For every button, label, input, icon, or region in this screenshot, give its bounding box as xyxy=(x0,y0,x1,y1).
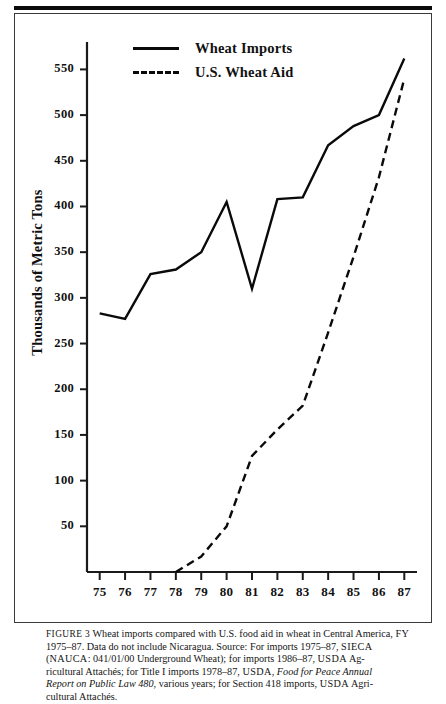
caption-text-4a: ricultural Attachés; for Title I imports… xyxy=(46,666,242,677)
y-tick-label: 300 xyxy=(15,290,74,305)
caption-sc-usda-1: USDA xyxy=(318,653,347,664)
legend-dashed-line-icon xyxy=(133,65,179,79)
plot-frame: Thousands of Metric Tons 501001502002503… xyxy=(14,13,432,623)
y-tick-label: 450 xyxy=(15,153,74,168)
caption-text-2a: 1975–87. Data do not include Nicaragua. … xyxy=(46,641,341,652)
y-tick-label: 550 xyxy=(15,61,74,76)
series-line-us-wheat-aid xyxy=(176,79,404,572)
caption-sc-usda-3: USDA xyxy=(320,678,349,689)
caption-sc-nauca: NAUCA xyxy=(49,653,87,664)
y-tick-label: 400 xyxy=(15,198,74,213)
chart-legend: Wheat Imports U.S. Wheat Aid xyxy=(133,36,293,84)
caption-line-5: Report on Public Law 480, various years;… xyxy=(46,678,432,691)
top-rule xyxy=(14,6,432,10)
y-tick-label: 500 xyxy=(15,107,74,122)
y-tick-label: 200 xyxy=(15,381,74,396)
series-line-wheat-imports xyxy=(100,58,405,318)
legend-solid-line-icon xyxy=(133,41,179,55)
x-axis-ticks xyxy=(100,572,405,580)
caption-text-6a: cultural Attachés. xyxy=(46,691,117,702)
figure-number: FIGURE 3 xyxy=(46,629,90,639)
caption-sc-sieca: SIECA xyxy=(341,641,372,652)
legend-label-wheat-imports: Wheat Imports xyxy=(195,40,292,57)
caption-italic-2: Report on Public Law 480 xyxy=(46,678,154,689)
caption-italic-1: Food for Peace Annual xyxy=(277,666,372,677)
caption-text-3b: Ag- xyxy=(347,653,365,664)
legend-label-us-wheat-aid: U.S. Wheat Aid xyxy=(195,64,293,81)
caption-sc-fy: FY xyxy=(395,628,409,639)
caption-line-4: ricultural Attachés; for Title I imports… xyxy=(46,666,432,679)
caption-text-3a: : 041/01/00 Underground Wheat); for impo… xyxy=(88,653,318,664)
x-tick-label: 87 xyxy=(388,584,420,600)
caption-sc-usda-2: USDA xyxy=(242,666,271,677)
y-axis-title: Thousands of Metric Tons xyxy=(29,83,46,463)
caption-text-5a: , various years; for Section 418 imports… xyxy=(154,678,320,689)
caption-line-2: 1975–87. Data do not include Nicaragua. … xyxy=(46,641,432,654)
chart-plot-area xyxy=(15,14,431,622)
y-tick-label: 350 xyxy=(15,244,74,259)
y-tick-label: 250 xyxy=(15,336,74,351)
caption-text-1a: Wheat imports compared with U.S. food ai… xyxy=(92,628,395,639)
caption-line-1: FIGURE 3 Wheat imports compared with U.S… xyxy=(46,628,432,641)
figure-caption: FIGURE 3 Wheat imports compared with U.S… xyxy=(46,628,432,704)
legend-item-us-wheat-aid: U.S. Wheat Aid xyxy=(133,60,293,84)
y-tick-label: 50 xyxy=(15,518,74,533)
y-tick-label: 150 xyxy=(15,427,74,442)
caption-text-5b: Agri- xyxy=(349,678,373,689)
y-tick-label: 100 xyxy=(15,473,74,488)
legend-item-wheat-imports: Wheat Imports xyxy=(133,36,293,60)
caption-line-3: (NAUCA: 041/01/00 Underground Wheat); fo… xyxy=(46,653,432,666)
caption-line-6: cultural Attachés. xyxy=(46,691,432,704)
